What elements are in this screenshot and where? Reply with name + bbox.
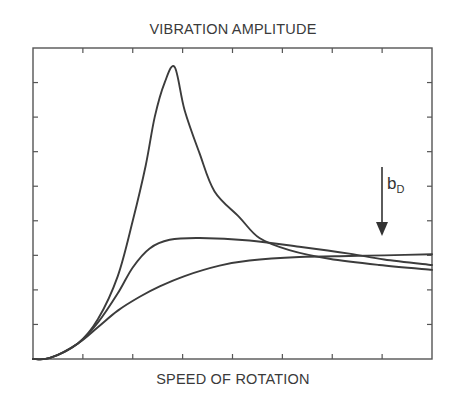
plot-frame xyxy=(33,48,432,359)
annotation-subscript: D xyxy=(396,183,404,195)
curves xyxy=(33,66,432,359)
damping-label: bD xyxy=(387,174,404,195)
x-axis-label: SPEED OF ROTATION xyxy=(0,371,458,387)
axis-ticks xyxy=(33,48,432,359)
curve-low-damping xyxy=(33,66,432,359)
curve-high-damping xyxy=(33,254,432,359)
plot-area xyxy=(0,0,458,407)
